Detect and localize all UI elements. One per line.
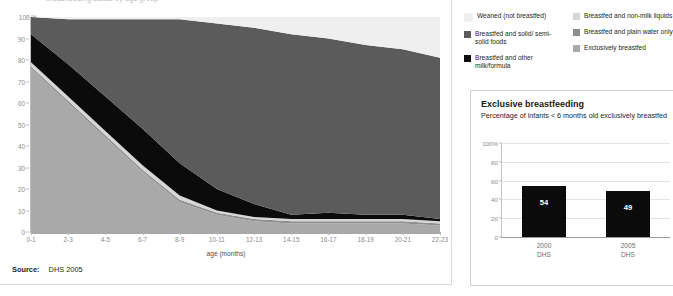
- legend-item-solid_foods[interactable]: Breastfed and solid/ semi- solid foods: [464, 30, 564, 47]
- area-x-tick-label: 22-23: [432, 236, 448, 243]
- area-y-tick-label: 60: [18, 100, 25, 107]
- legend-swatch-plain_water: [573, 29, 580, 36]
- area-x-tick-mark: [68, 232, 69, 235]
- area-y-tick-mark: [26, 103, 29, 104]
- bar-x-label-year: 2005: [621, 241, 636, 250]
- area-x-tick-mark: [366, 232, 367, 235]
- area-x-tick-mark: [328, 232, 329, 235]
- legend-swatch-other_milk: [464, 55, 471, 62]
- area-x-tick-mark: [440, 232, 441, 235]
- bar-y-tick-label: 40: [473, 196, 498, 203]
- legend-item-exclusive[interactable]: Exclusively breastfed: [573, 44, 673, 52]
- legend-label: Breastfed and solid/ semi- solid foods: [475, 30, 564, 47]
- area-y-tick-mark: [26, 167, 29, 168]
- bar-2005[interactable]: 49: [606, 191, 650, 237]
- area-y-tick-label: 90: [18, 35, 25, 42]
- area-x-tick-mark: [143, 232, 144, 235]
- bar-plot: 5449: [502, 143, 670, 237]
- bar-x-label: 2000DHS: [537, 241, 552, 259]
- area-y-tick-mark: [26, 189, 29, 190]
- area-x-tick-label: 8-9: [175, 236, 184, 243]
- area-x-tick-label: 10-11: [209, 236, 225, 243]
- area-y-axis-labels: 0102030405060708090100 %: [0, 17, 29, 232]
- source-label: Source:: [12, 265, 40, 274]
- legend-swatch-solid_foods: [464, 31, 471, 38]
- bar-x-label-year: 2000: [537, 241, 552, 250]
- area-x-axis-labels: 0-12-34-56-78-910-1112-1314-1516-1718-19…: [31, 236, 440, 248]
- panel-title: Exclusive breastfeeding: [481, 99, 584, 109]
- bar-x-label: 2005DHS: [621, 241, 636, 259]
- bar-y-tick-mark: [499, 143, 502, 144]
- bar-value-label: 54: [522, 198, 566, 207]
- bar-y-tick-mark: [499, 180, 502, 181]
- area-x-tick-mark: [217, 232, 218, 235]
- area-y-tick-label: 40: [18, 143, 25, 150]
- area-x-tick-label: 16-17: [320, 236, 336, 243]
- area-x-tick-label: 6-7: [138, 236, 147, 243]
- legend-item-non_milk_liquids[interactable]: Breastfed and non-milk liquids: [573, 12, 673, 20]
- source-note: Source: DHS 2005: [12, 265, 83, 274]
- area-y-tick-label: 20: [18, 186, 25, 193]
- bar-gridline: [502, 181, 670, 182]
- area-y-tick-label: 70: [18, 78, 25, 85]
- legend-item-plain_water[interactable]: Breastfed and plain water only: [573, 28, 673, 36]
- area-x-tick-label: 2-3: [64, 236, 73, 243]
- area-x-tick-label: 4-5: [101, 236, 110, 243]
- area-chart-svg: [31, 17, 440, 232]
- legend-label: Exclusively breastfed: [584, 44, 646, 52]
- bar-y-tick-mark: [499, 199, 502, 200]
- area-x-tick-mark: [403, 232, 404, 235]
- bar-value-label: 49: [606, 203, 650, 212]
- legend-label: Breastfed and other milk/formula: [475, 54, 564, 71]
- area-plot: [31, 17, 440, 232]
- legend-label: Breastfed and plain water only: [584, 28, 673, 36]
- area-y-tick-label: 0: [21, 229, 25, 236]
- area-y-tick-mark: [26, 60, 29, 61]
- area-x-tick-label: 20-21: [395, 236, 411, 243]
- area-x-tick-mark: [291, 232, 292, 235]
- legend-swatch-non_milk_liquids: [573, 13, 580, 20]
- bar-x-label-survey: DHS: [621, 250, 636, 259]
- area-y-tick-mark: [26, 17, 29, 18]
- bar-y-tick-label: 60: [473, 177, 498, 184]
- legend: Weaned (not breastfed)Breastfed and soli…: [464, 12, 673, 78]
- area-x-tick-mark: [180, 232, 181, 235]
- exclusive-breastfeeding-panel: Exclusive breastfeeding Percentage of in…: [470, 90, 673, 286]
- bar-y-tick-label: 100%: [473, 140, 498, 147]
- legend-swatch-weaned: [464, 13, 473, 22]
- bar-y-tick-label: 0: [473, 234, 498, 241]
- legend-column: Weaned (not breastfed)Breastfed and soli…: [464, 12, 564, 78]
- bar-y-tick-mark: [499, 218, 502, 219]
- area-y-tick-label: 50: [18, 121, 25, 128]
- area-y-tick-label: 30: [18, 164, 25, 171]
- bar-y-tick-mark: [499, 161, 502, 162]
- bar-y-tick-label: 20: [473, 215, 498, 222]
- bar-baseline: [501, 237, 670, 238]
- area-x-axis-title: age (months): [0, 250, 452, 257]
- area-x-axis-line: [31, 232, 441, 234]
- figure-root: breastfeeding status by age group 010203…: [0, 0, 673, 296]
- area-y-tick-label: 80: [18, 57, 25, 64]
- area-y-tick-mark: [26, 38, 29, 39]
- panel-subtitle: Percentage of infants < 6 months old exc…: [481, 111, 669, 120]
- area-y-tick-mark: [26, 232, 29, 233]
- area-y-tick-mark: [26, 124, 29, 125]
- legend-label: Breastfed and non-milk liquids: [584, 12, 672, 20]
- clipped-heading-text: breastfeeding status by age group: [46, 0, 158, 2]
- area-series-group: [31, 17, 440, 232]
- area-x-tick-mark: [105, 232, 106, 235]
- area-x-tick-label: 0-1: [26, 236, 35, 243]
- area-y-tick-mark: [26, 210, 29, 211]
- area-y-tick-label: 10: [18, 207, 25, 214]
- bar-y-tick-label: 80: [473, 158, 498, 165]
- area-x-tick-mark: [31, 232, 32, 235]
- source-value: DHS 2005: [49, 265, 83, 274]
- area-x-tick-label: 14-15: [283, 236, 299, 243]
- legend-column: Breastfed and non-milk liquidsBreastfed …: [573, 12, 673, 78]
- legend-item-other_milk[interactable]: Breastfed and other milk/formula: [464, 54, 564, 71]
- area-y-tick-mark: [26, 81, 29, 82]
- bar-2000[interactable]: 54: [522, 186, 566, 237]
- legend-label: Weaned (not breastfed): [477, 12, 546, 20]
- legend-item-weaned[interactable]: Weaned (not breastfed): [464, 12, 564, 22]
- area-chart-panel: breastfeeding status by age group 010203…: [0, 0, 452, 285]
